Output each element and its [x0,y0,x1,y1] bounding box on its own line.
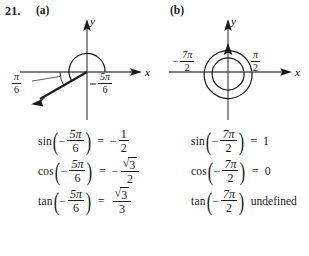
function-name: tan [191,195,206,207]
function-name: sin [191,135,205,147]
result-value: 1 [263,134,269,149]
equation-list-a: sin ( − 5π 6 ) = − 1 2 cos ( − 5π [0,126,155,216]
function-name: cos [38,165,54,177]
arg-minus: − [61,164,68,179]
equation-row: sin ( − 5π 6 ) = − 1 2 [0,126,155,156]
argument-fraction: 5π 6 [67,128,83,155]
equation-row: tan ( − 7π 2 ) undefined [155,186,309,216]
angle-diagram-b: y x − 7π 2 π 2 [155,10,309,122]
result-minus: − [110,134,117,149]
arg-minus: − [212,134,219,149]
argument-fraction: 5π 6 [68,188,84,215]
function-name: tan [38,195,53,207]
result-fraction: 1 2 [119,128,129,155]
y-axis-b [224,19,232,120]
radical-sign: √3 [115,187,130,201]
reference-angle-label-a: π 6 [11,72,22,95]
angle-label-b: − 7π 2 [172,50,195,73]
argument-fraction: 7π 2 [220,128,236,155]
result-fraction: √3 2 [121,157,140,186]
equation-row: sin ( − 7π 2 ) = 1 [155,126,309,156]
answer-key-figure: 21. (a) (b) [0,0,309,256]
equals-sign: = [97,134,104,149]
equals-sign: = [250,134,257,149]
equals-sign: = [252,164,259,179]
result-minus: − [112,164,119,179]
equation-list-b: sin ( − 7π 2 ) = 1 cos ( − 7π 2 ) = 0 ta… [155,126,309,216]
reference-angle-label-b: π 2 [250,50,261,73]
arg-minus: − [59,134,66,149]
y-axis-label-b: y [230,15,236,27]
y-axis-a [83,19,91,120]
result-value: undefined [251,195,297,207]
result-value: − √3 2 [112,157,140,186]
equation-row: cos ( − 7π 2 ) = 0 [155,156,309,186]
terminal-ray-a [31,72,87,106]
result-value: 0 [265,164,271,179]
argument-fraction: 5π 6 [69,158,85,185]
result-value: √3 3 [111,187,133,216]
arg-minus: − [212,194,219,209]
angle-label-a: 5π 6 [97,72,113,95]
result-value: − 1 2 [110,128,130,155]
argument-fraction: 7π 2 [222,158,238,185]
radical-sign: √3 [123,157,138,171]
equation-row: tan ( − 5π 6 ) = √3 3 [0,186,155,216]
arg-minus: − [214,164,221,179]
equals-sign: = [99,164,106,179]
x-axis-label-b: x [294,66,300,78]
x-axis-label-a: x [144,66,150,78]
result-fraction: √3 3 [113,187,132,216]
argument-fraction: 7π 2 [221,188,237,215]
reference-angle-leader-a [32,77,60,82]
y-axis-label-a: y [89,15,95,27]
equals-sign: = [98,194,105,209]
angle-diagram-a: y x π 6 5π 6 [0,10,155,122]
equation-row: cos ( − 5π 6 ) = − √3 2 [0,156,155,186]
function-name: cos [191,165,207,177]
reference-angle-arc-a [60,72,64,86]
function-name: sin [38,135,52,147]
arg-minus: − [59,194,66,209]
